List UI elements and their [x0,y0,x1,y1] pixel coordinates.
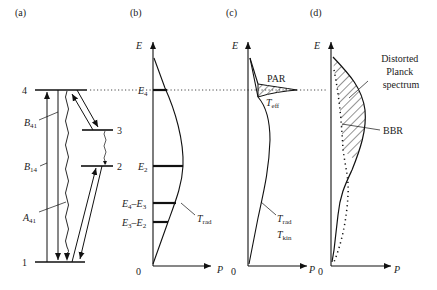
b41-leader [39,112,58,120]
arrow-2-to-1 [80,166,102,259]
c-teff-label: Teff [266,97,280,110]
c-par-hatched-peak [258,84,297,97]
b-origin-label: 0 [136,266,141,277]
arrow-1-to-2 [72,168,96,262]
c-axis-p-label: P [308,264,315,275]
panel-d: (d) E P 0 Distorted Planck spectrum BBR [310,7,421,277]
panel-b-tag: (b) [130,7,142,19]
b-e3-e2-label: E3–E2 [121,217,147,230]
level-2-label: 2 [117,161,122,172]
b14-leader [40,163,47,166]
c-trad-label: Trad [277,213,292,226]
d-axis-e-label: E [313,40,320,51]
d-bbr-label: BBR [383,125,403,136]
b-axis-e-label: E [135,40,142,51]
level-4-label: 4 [22,85,27,96]
c-axis-e-label: E [231,40,238,51]
level-3-label: 3 [117,125,122,136]
b14-label: B14 [24,161,38,174]
b-e4-label: E4 [137,85,148,98]
panel-c: (c) E P 0 PAR Teff Trad Tkin [226,7,315,277]
a41-leader [39,202,66,212]
b-e4-e3-label: E4–E3 [121,198,147,211]
d-axis-p-label: P [393,264,400,275]
c-trad-leader [261,202,276,215]
d-distorted-label: Distorted Planck spectrum [381,53,421,90]
panel-b: (b) E P 0 E4 E2 E4–E3 E3–E2 Trad [121,7,223,277]
c-par-label: PAR [267,73,286,84]
c-tkin-label: Tkin [277,229,292,242]
nonradiative-arrowhead [103,161,107,165]
a41-label: A41 [22,212,37,225]
panel-a-tag: (a) [15,7,26,19]
b41-label: B41 [24,117,38,130]
spontaneous-emission-arrowhead [64,253,70,261]
b-trad-label: Trad [197,213,212,226]
b-trad-leader [181,203,195,215]
nonradiative-3-to-2-wavy [104,131,106,164]
energy-level-diagram-figure: (a) 4 3 2 1 B41 B14 A41 [0,0,437,290]
panel-c-tag: (c) [226,7,237,19]
d-origin-label: 0 [318,266,323,277]
b-axis-p-label: P [216,264,223,275]
b-e2-label: E2 [137,161,148,174]
panel-d-tag: (d) [310,7,322,19]
level-1-label: 1 [22,257,27,268]
panel-a: (a) 4 3 2 1 B41 B14 A41 [15,7,122,268]
spontaneous-emission-wavy-arrow-a41 [66,91,69,253]
c-origin-label: 0 [231,266,236,277]
